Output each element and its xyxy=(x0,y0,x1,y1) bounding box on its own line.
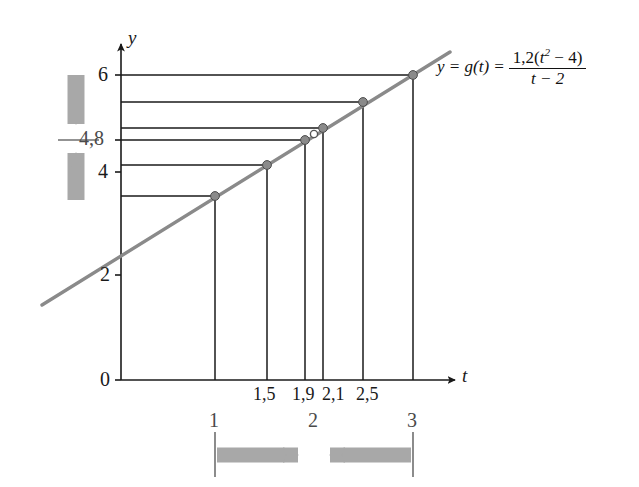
data-point-t1 xyxy=(211,192,220,201)
formula-numerator-post: − 4) xyxy=(550,48,582,67)
y-tick-label-2: 2 xyxy=(100,264,110,284)
y-tick-label-6: 6 xyxy=(98,64,108,84)
x-axis-label: t xyxy=(462,366,467,385)
x-tick-label-1-5: 1,5 xyxy=(253,385,276,403)
data-point-t21 xyxy=(319,124,328,133)
formula-numerator: 1,2(t2 − 4) xyxy=(509,47,587,68)
x-tick-label-1-9: 1,9 xyxy=(292,385,315,403)
data-point-t19 xyxy=(301,136,310,145)
x-outer-label-2: 2 xyxy=(308,410,318,430)
data-point-t15 xyxy=(263,161,272,170)
limit-graph-figure: y t 6 4,8 4 2 0 1,5 1,9 2,1 2,5 1 2 3 y … xyxy=(0,0,639,487)
formula-fraction: 1,2(t2 − 4) t − 2 xyxy=(509,47,587,88)
x-outer-label-3: 3 xyxy=(407,410,417,430)
vertical-drop-lines xyxy=(215,75,413,380)
x-tick-label-2-5: 2,5 xyxy=(356,385,379,403)
formula-denominator: t − 2 xyxy=(527,69,568,88)
y-axis-ticks xyxy=(115,75,121,380)
data-point-t25 xyxy=(359,98,368,107)
function-formula: y = g(t) = 1,2(t2 − 4) t − 2 xyxy=(437,47,586,88)
x-outer-label-1: 1 xyxy=(209,410,219,430)
origin-label: 0 xyxy=(100,369,110,389)
formula-lhs: y = g(t) = xyxy=(437,57,505,77)
y-tick-label-4-8: 4,8 xyxy=(79,128,104,148)
x-tick-label-2-1: 2,1 xyxy=(322,385,345,403)
data-point-t3 xyxy=(409,71,418,80)
y-tick-label-4: 4 xyxy=(98,161,108,181)
y-axis-label: y xyxy=(128,28,136,47)
removable-discontinuity-hole xyxy=(310,130,317,137)
axis-lines xyxy=(121,44,455,380)
formula-numerator-pre: 1,2( xyxy=(513,48,540,67)
